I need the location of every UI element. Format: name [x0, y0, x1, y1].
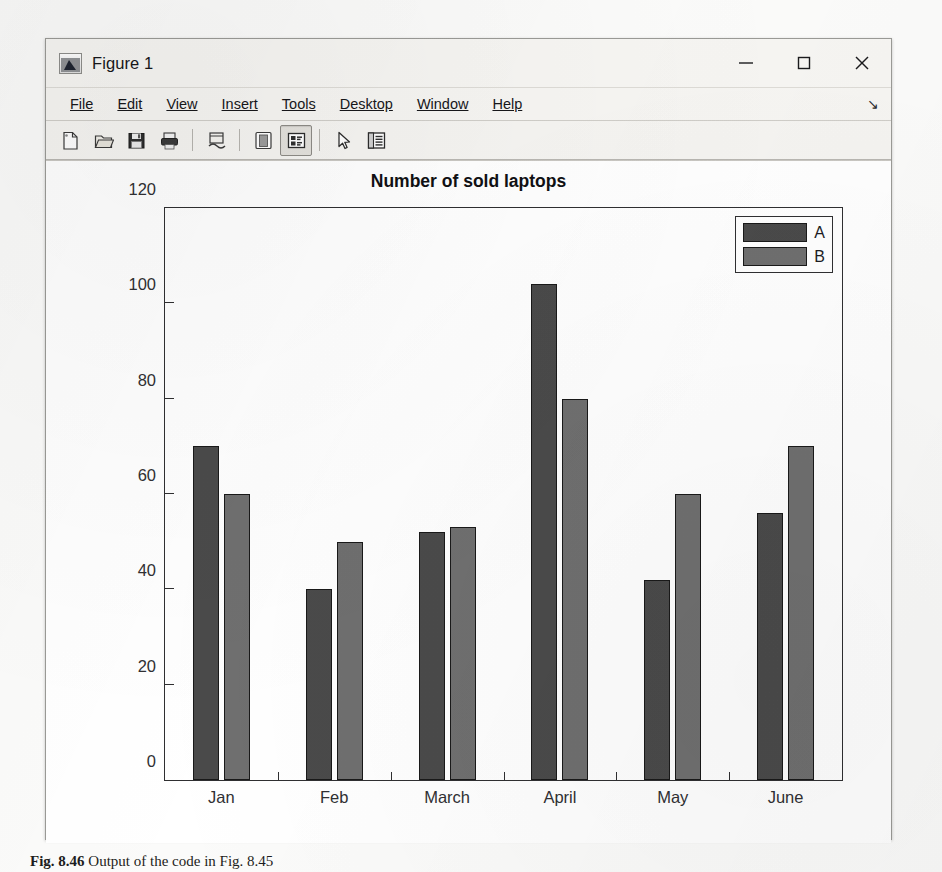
- edit-plot-icon[interactable]: [327, 125, 359, 156]
- caption-figure-number: Fig. 8.46: [30, 853, 85, 869]
- menu-item-tools[interactable]: Tools: [270, 94, 328, 114]
- legend-swatch-b: [743, 247, 807, 266]
- minimize-button[interactable]: [717, 39, 775, 87]
- y-tick: [165, 588, 174, 589]
- x-tick: [504, 772, 505, 780]
- x-tick-label-jan: Jan: [208, 788, 235, 807]
- bar-march-a[interactable]: [419, 532, 445, 780]
- insert-legend-icon[interactable]: [280, 125, 312, 156]
- bar-may-a[interactable]: [644, 580, 670, 780]
- window-title-bar: Figure 1: [46, 39, 891, 88]
- x-tick: [616, 772, 617, 780]
- menu-item-help-label: Help: [492, 96, 522, 112]
- x-tick-label-april: April: [543, 788, 576, 807]
- y-tick-label: 40: [138, 561, 156, 580]
- matlab-figure-window: Figure 1 File Edit View: [45, 38, 892, 840]
- y-tick-label: 80: [138, 370, 156, 389]
- legend-label-b: B: [814, 249, 825, 265]
- menu-bar: File Edit View Insert Tools Desktop Wind…: [46, 88, 891, 121]
- show-plot-tools-icon[interactable]: [360, 125, 392, 156]
- y-tick: [165, 493, 174, 494]
- window-title: Figure 1: [92, 54, 153, 73]
- y-tick-label: 60: [138, 466, 156, 485]
- legend-entry-b: B: [743, 247, 825, 266]
- menu-item-window[interactable]: Window: [405, 94, 481, 114]
- link-plot-icon[interactable]: [200, 125, 232, 156]
- bar-group: [419, 208, 476, 780]
- chart-axes: AB 020406080100120JanFebMarchAprilMayJun…: [164, 207, 843, 781]
- new-figure-icon[interactable]: [54, 125, 86, 156]
- x-tick: [729, 772, 730, 780]
- bar-april-b[interactable]: [562, 399, 588, 780]
- bar-group: [306, 208, 363, 780]
- menu-item-help[interactable]: Help: [480, 94, 534, 114]
- bar-group: [531, 208, 588, 780]
- menu-item-insert[interactable]: Insert: [210, 94, 270, 114]
- menu-item-edit-label: Edit: [117, 96, 142, 112]
- legend-entry-a: A: [743, 223, 825, 242]
- menu-item-tools-label: Tools: [282, 96, 316, 112]
- book-figure-caption: Fig. 8.46 Output of the code in Fig. 8.4…: [30, 853, 273, 870]
- y-tick-label: 20: [138, 656, 156, 675]
- figure-canvas: and the reverse side text faint printed …: [46, 160, 891, 843]
- y-tick: [165, 302, 174, 303]
- y-tick-label: 0: [147, 752, 156, 771]
- y-tick: [165, 398, 174, 399]
- window-controls: [717, 39, 891, 87]
- bar-group: [644, 208, 701, 780]
- bar-group: [757, 208, 814, 780]
- x-tick: [391, 772, 392, 780]
- menu-item-view[interactable]: View: [154, 94, 209, 114]
- bar-feb-b[interactable]: [337, 542, 363, 780]
- save-figure-icon[interactable]: [120, 125, 152, 156]
- insert-colorbar-icon[interactable]: [247, 125, 279, 156]
- menu-overflow-arrow-icon[interactable]: ↘: [867, 97, 879, 111]
- x-tick: [278, 772, 279, 780]
- bar-jan-a[interactable]: [193, 446, 219, 780]
- bar-group: [193, 208, 250, 780]
- chart-title: Number of sold laptops: [46, 171, 891, 192]
- menu-item-edit[interactable]: Edit: [105, 94, 154, 114]
- x-tick-label-june: June: [768, 788, 804, 807]
- menu-item-insert-label: Insert: [222, 96, 258, 112]
- bar-june-a[interactable]: [757, 513, 783, 780]
- toolbar-separator-1: [192, 129, 193, 151]
- x-tick-label-march: March: [424, 788, 470, 807]
- bar-feb-a[interactable]: [306, 589, 332, 780]
- bar-may-b[interactable]: [675, 494, 701, 780]
- print-figure-icon[interactable]: [153, 125, 185, 156]
- figure-toolbar: [46, 121, 891, 160]
- x-tick-label-feb: Feb: [320, 788, 348, 807]
- bar-april-a[interactable]: [531, 284, 557, 780]
- x-tick-label-may: May: [657, 788, 688, 807]
- menu-item-file[interactable]: File: [58, 94, 105, 114]
- legend-swatch-a: [743, 223, 807, 242]
- legend-label-a: A: [814, 225, 825, 241]
- y-tick: [165, 684, 174, 685]
- y-tick-label: 100: [128, 275, 156, 294]
- open-file-icon[interactable]: [87, 125, 119, 156]
- toolbar-separator-2: [239, 129, 240, 151]
- maximize-button[interactable]: [775, 39, 833, 87]
- bar-march-b[interactable]: [450, 527, 476, 780]
- toolbar-separator-3: [319, 129, 320, 151]
- menu-item-view-label: View: [166, 96, 197, 112]
- close-button[interactable]: [833, 39, 891, 87]
- menu-item-desktop-label: Desktop: [340, 96, 393, 112]
- bar-june-b[interactable]: [788, 446, 814, 780]
- matlab-membrane-icon: [59, 53, 82, 74]
- menu-item-file-label: File: [70, 96, 93, 112]
- caption-text: Output of the code in Fig. 8.45: [88, 853, 273, 869]
- menu-item-desktop[interactable]: Desktop: [328, 94, 405, 114]
- bar-jan-b[interactable]: [224, 494, 250, 780]
- menu-item-window-label: Window: [417, 96, 469, 112]
- plot-area: [165, 208, 842, 780]
- chart-legend[interactable]: AB: [735, 216, 833, 273]
